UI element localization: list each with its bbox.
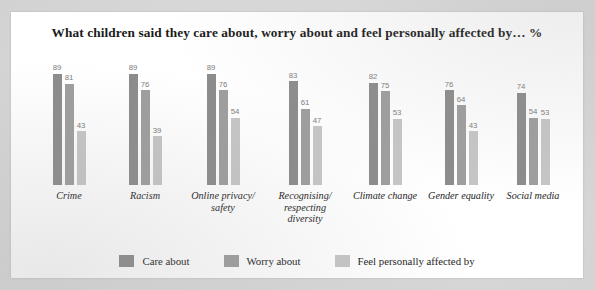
legend-item[interactable]: Feel personally affected by [335, 255, 475, 267]
bar-value-label: 89 [129, 63, 138, 72]
bar [207, 74, 216, 185]
bar [457, 105, 466, 185]
bar-value-label: 43 [469, 121, 478, 130]
bar-value-label: 54 [529, 107, 538, 116]
bar-value-label: 47 [313, 116, 322, 125]
bar [393, 119, 402, 185]
bar [129, 74, 138, 185]
category-label: Online privacy/safety [178, 190, 268, 213]
category-axis-labels: CrimeRacismOnline privacy/safetyRecognis… [33, 190, 563, 252]
category-label-line: Gender equality [428, 190, 494, 201]
bar [369, 83, 378, 186]
bar-value-label: 81 [65, 73, 74, 82]
bar-value-label: 54 [231, 107, 240, 116]
bar-group: 897654 [207, 60, 240, 185]
bar-wrap: 89 [129, 60, 138, 185]
bar [469, 131, 478, 185]
legend-item[interactable]: Worry about [224, 255, 301, 267]
bar-wrap: 82 [369, 60, 378, 185]
bar-value-label: 74 [517, 82, 526, 91]
bar-group: 897639 [129, 60, 162, 185]
bar-wrap: 89 [207, 60, 216, 185]
bar-wrap: 43 [77, 60, 86, 185]
bar-value-label: 76 [219, 80, 228, 89]
bar-wrap: 81 [65, 60, 74, 185]
category-label-line: Racism [130, 190, 160, 201]
bar [219, 90, 228, 185]
bar-wrap: 39 [153, 60, 162, 185]
legend-label: Feel personally affected by [358, 255, 475, 267]
bar-wrap: 74 [517, 60, 526, 185]
scanned-page-background: What children said they care about, worr… [0, 0, 595, 290]
bar-wrap: 43 [469, 60, 478, 185]
bar-value-label: 83 [289, 71, 298, 80]
legend-swatch-icon [335, 255, 350, 267]
bar-value-label: 89 [53, 63, 62, 72]
legend-label: Care about [142, 255, 189, 267]
bar-value-label: 64 [457, 95, 466, 104]
bar-wrap: 64 [457, 60, 466, 185]
bar-wrap: 83 [289, 60, 298, 185]
bar-group: 827553 [369, 60, 402, 185]
bar-chart-plot-area: 8981438976398976548361478275537664437454… [33, 60, 563, 185]
chart-card: What children said they care about, worr… [11, 12, 583, 278]
bar-wrap: 53 [541, 60, 550, 185]
bar-value-label: 39 [153, 126, 162, 135]
category-label-line: safety [211, 202, 235, 213]
bar [541, 119, 550, 185]
legend-swatch-icon [119, 255, 134, 267]
bar [517, 93, 526, 186]
bar [301, 109, 310, 185]
bar-value-label: 76 [141, 80, 150, 89]
bar-wrap: 54 [529, 60, 538, 185]
bar-value-label: 43 [77, 121, 86, 130]
bar-wrap: 53 [393, 60, 402, 185]
category-label-line: respecting [284, 202, 326, 213]
bar [53, 74, 62, 185]
bar [65, 84, 74, 185]
bar [231, 118, 240, 186]
bar-group: 745453 [517, 60, 550, 185]
bar-group: 766443 [445, 60, 478, 185]
bar [313, 126, 322, 185]
bar-wrap: 75 [381, 60, 390, 185]
category-label-line: diversity [287, 213, 322, 224]
bar-wrap: 47 [313, 60, 322, 185]
legend-swatch-icon [224, 255, 239, 267]
category-label: Social media [488, 190, 578, 202]
bar-wrap: 61 [301, 60, 310, 185]
bar-value-label: 61 [301, 98, 310, 107]
bar-value-label: 89 [207, 63, 216, 72]
category-label-line: Social media [507, 190, 560, 201]
bar [289, 81, 298, 185]
bar-value-label: 76 [445, 80, 454, 89]
bar [445, 90, 454, 185]
bar-value-label: 53 [541, 108, 550, 117]
bar-value-label: 53 [393, 108, 402, 117]
bar [529, 118, 538, 186]
legend-label: Worry about [247, 255, 301, 267]
bar-group: 836147 [289, 60, 322, 185]
bar [141, 90, 150, 185]
legend-item[interactable]: Care about [119, 255, 189, 267]
category-label-line: Recognising/ [278, 190, 331, 201]
bar-group: 898143 [53, 60, 86, 185]
bar [381, 91, 390, 185]
category-label: Racism [100, 190, 190, 202]
bar-wrap: 76 [219, 60, 228, 185]
category-label: Recognising/respectingdiversity [260, 190, 350, 225]
bar-value-label: 75 [381, 81, 390, 90]
category-label-line: Online privacy/ [191, 190, 255, 201]
chart-legend: Care aboutWorry aboutFeel personally aff… [11, 255, 583, 267]
bar-wrap: 76 [141, 60, 150, 185]
chart-title: What children said they care about, worr… [11, 25, 583, 41]
bar-value-label: 82 [369, 72, 378, 81]
bar-wrap: 54 [231, 60, 240, 185]
category-label-line: Crime [56, 190, 81, 201]
bar [77, 131, 86, 185]
bar-wrap: 89 [53, 60, 62, 185]
bar [153, 136, 162, 185]
category-label-line: Climate change [353, 190, 417, 201]
bar-wrap: 76 [445, 60, 454, 185]
